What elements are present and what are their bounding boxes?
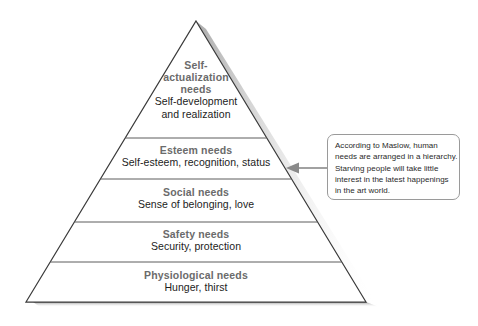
callout-line: Starving people will take little bbox=[335, 163, 453, 174]
tier-desc-safety: Security, protection bbox=[0, 240, 392, 252]
tier-title-line: actualization bbox=[0, 72, 392, 84]
tier-title-line: needs bbox=[0, 84, 392, 96]
tier-desc-line: Self-development bbox=[0, 95, 392, 107]
diagram-canvas: Self- actualization needs Self-developme… bbox=[0, 0, 478, 326]
tier-desc-physiological: Hunger, thirst bbox=[0, 281, 392, 293]
annotation-callout[interactable]: According to Maslow, human needs are arr… bbox=[327, 134, 460, 200]
callout-line: interest in the latest happenings bbox=[335, 174, 453, 185]
pyramid-tier-physiological[interactable]: Physiological needs Hunger, thirst bbox=[0, 269, 392, 294]
tier-title-self-actualization: Self- actualization needs bbox=[0, 60, 392, 95]
tier-desc-line: and realization bbox=[0, 108, 392, 120]
callout-line: in the art world. bbox=[335, 185, 453, 196]
callout-line: According to Maslow, human bbox=[335, 140, 453, 151]
tier-title-line: Self- bbox=[0, 60, 392, 72]
tier-desc-self-actualization: Self-development and realization bbox=[0, 95, 392, 120]
tier-title-safety: Safety needs bbox=[0, 228, 392, 240]
tier-desc-social: Sense of belonging, love bbox=[0, 198, 392, 210]
callout-line: needs are arranged in a hierarchy. bbox=[335, 151, 453, 162]
pyramid-tier-safety[interactable]: Safety needs Security, protection bbox=[0, 228, 392, 253]
tier-title-physiological: Physiological needs bbox=[0, 269, 392, 281]
pyramid-shadow-bottom bbox=[33, 302, 379, 307]
pyramid-tier-self-actualization[interactable]: Self- actualization needs Self-developme… bbox=[0, 60, 392, 120]
